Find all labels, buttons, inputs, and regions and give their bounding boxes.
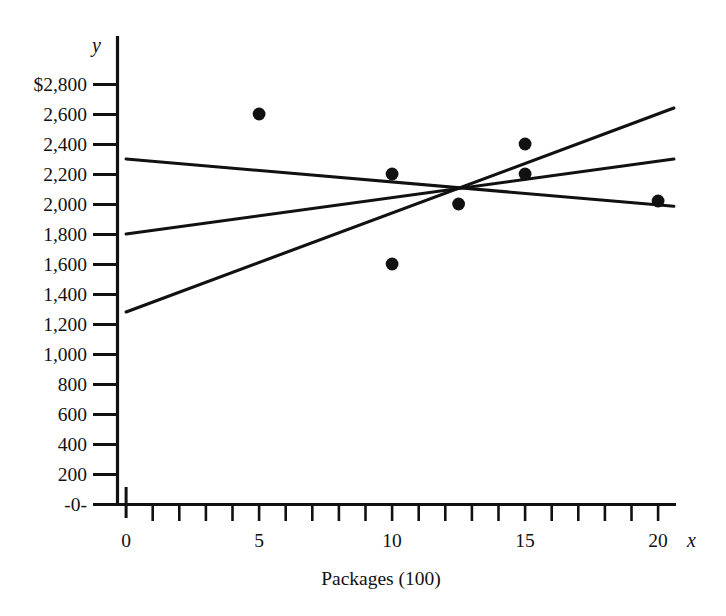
y-tick-label-0: -0-	[64, 494, 87, 515]
regression-line-steep-positive	[126, 108, 674, 312]
data-point	[519, 168, 532, 181]
data-point	[386, 168, 399, 181]
x-axis-symbol: x	[686, 529, 696, 551]
regression-line-negative	[126, 159, 674, 206]
y-axis-symbol: y	[90, 34, 101, 57]
x-tick-label-20: 20	[648, 530, 668, 551]
data-point	[519, 138, 532, 151]
y-tick-label-400: 400	[58, 434, 87, 455]
x-tick-label-10: 10	[382, 530, 402, 551]
y-tick-label-800: 800	[58, 374, 87, 395]
chart-page: $2,800 2,600 2,400 2,200 2,000 1,800 1,6…	[0, 0, 726, 616]
y-tick-label-1200: 1,200	[43, 314, 87, 335]
y-tick-label-1600: 1,600	[43, 254, 87, 275]
data-point	[386, 258, 399, 271]
y-tick-label-2200: 2,200	[43, 164, 87, 185]
y-tick-label-1800: 1,800	[43, 224, 87, 245]
x-axis-caption: Packages (100)	[321, 568, 441, 590]
regression-lines	[126, 108, 674, 312]
regression-line-shallow-positive	[126, 159, 674, 234]
x-tick-label-5: 5	[254, 530, 264, 551]
y-tick-label-2800: $2,800	[33, 74, 87, 95]
y-axis-ticks	[93, 85, 117, 505]
data-point	[452, 198, 465, 211]
y-tick-label-1000: 1,000	[43, 344, 87, 365]
data-point	[253, 108, 266, 121]
scatter-plot-figure: $2,800 2,600 2,400 2,200 2,000 1,800 1,6…	[0, 0, 726, 616]
x-tick-label-15: 15	[515, 530, 535, 551]
y-tick-label-2400: 2,400	[43, 134, 87, 155]
y-tick-label-200: 200	[58, 464, 87, 485]
y-tick-label-1400: 1,400	[43, 284, 87, 305]
y-tick-label-600: 600	[58, 404, 87, 425]
y-tick-label-2000: 2,000	[43, 194, 87, 215]
x-tick-label-0: 0	[121, 530, 131, 551]
y-tick-label-2600: 2,600	[43, 104, 87, 125]
data-point	[652, 195, 665, 208]
